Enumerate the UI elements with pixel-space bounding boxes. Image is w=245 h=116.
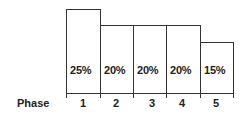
- x-tick-label: 1: [73, 97, 93, 109]
- bar-phase-1: 25%: [66, 9, 101, 93]
- x-axis-title: Phase: [17, 97, 49, 109]
- x-axis-tick: [100, 90, 101, 98]
- x-tick-label: 5: [206, 97, 226, 109]
- bar-value-label: 20%: [137, 64, 158, 76]
- bar-phase-4: 20%: [166, 25, 201, 93]
- x-tick-label: 3: [142, 97, 162, 109]
- x-tick-label: 4: [172, 97, 192, 109]
- bar-phase-3: 20%: [133, 25, 167, 93]
- bar-phase-5: 15%: [200, 42, 234, 93]
- bar-phase-2: 20%: [100, 25, 134, 93]
- x-axis-tick: [133, 90, 134, 98]
- x-axis-tick: [166, 90, 167, 98]
- bar-value-label: 20%: [104, 64, 125, 76]
- x-axis-tick: [66, 90, 67, 98]
- x-axis-tick: [233, 90, 234, 98]
- bar-value-label: 25%: [70, 64, 91, 76]
- phase-bar-chart: 25% 20% 20% 20% 15% Phase 1 2 3 4 5: [0, 0, 245, 116]
- bar-value-label: 15%: [204, 64, 225, 76]
- x-axis-tick: [200, 90, 201, 98]
- x-axis-line: [66, 93, 234, 94]
- x-tick-label: 2: [106, 97, 126, 109]
- bar-value-label: 20%: [170, 64, 191, 76]
